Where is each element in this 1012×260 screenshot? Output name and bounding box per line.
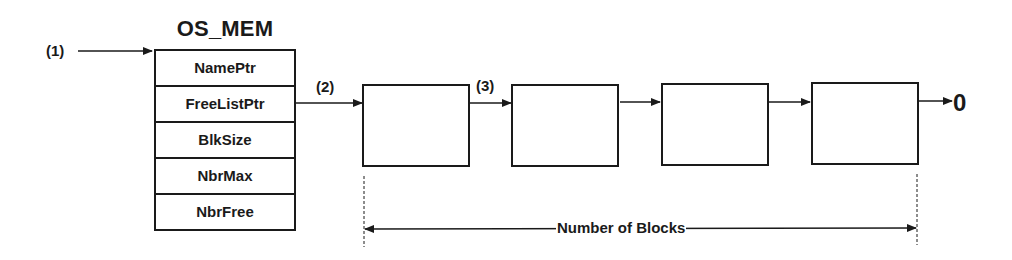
memory-block-4 [811, 82, 919, 165]
marker-1: (1) [46, 42, 64, 59]
struct-title: OS_MEM [154, 16, 296, 42]
marker-3: (3) [476, 77, 494, 94]
field-nameptr: NamePtr [156, 51, 294, 85]
memory-block-2 [511, 84, 619, 167]
marker-2: (2) [316, 78, 334, 95]
os-mem-struct: NamePtr FreeListPtr BlkSize NbrMax NbrFr… [154, 49, 296, 231]
number-of-blocks-label: Number of Blocks [556, 219, 686, 236]
field-blksize: BlkSize [156, 121, 294, 157]
field-nbrmax: NbrMax [156, 157, 294, 193]
field-freelistptr: FreeListPtr [156, 85, 294, 121]
memory-block-3 [661, 83, 769, 166]
field-nbrfree: NbrFree [156, 193, 294, 229]
memory-block-1 [362, 84, 470, 167]
null-terminator: 0 [953, 89, 966, 117]
